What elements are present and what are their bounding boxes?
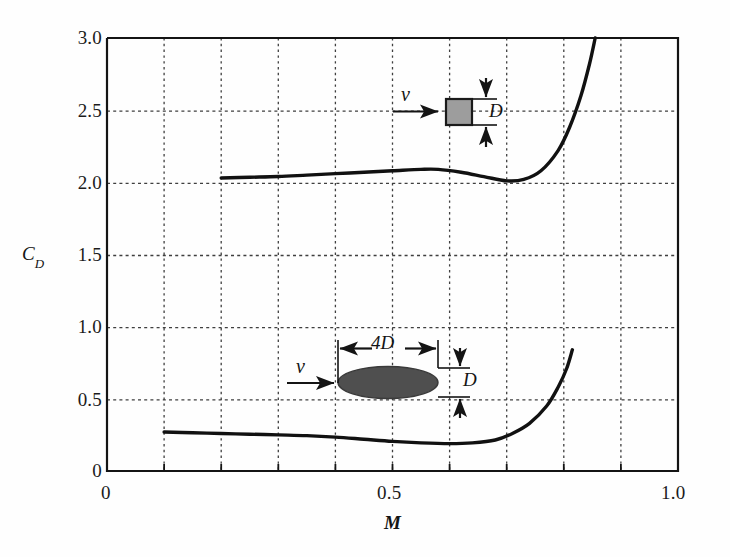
y-axis-title-main: C: [22, 243, 35, 264]
velocity-label-top: v: [401, 83, 410, 106]
x-axis-title: M: [384, 512, 401, 534]
y-tick-label-0: 0: [58, 460, 102, 482]
diameter-label-top: D: [489, 100, 503, 122]
x-tick-label-1.0: 1.0: [661, 482, 685, 504]
y-tick-label-0.5: 0.5: [58, 389, 102, 411]
curve-square-cylinder: [221, 38, 595, 181]
y-axis-title-subscript: D: [35, 256, 44, 271]
x-tick-label-0.5: 0.5: [377, 482, 401, 504]
velocity-label-bottom: v: [296, 355, 305, 378]
y-tick-label-2.5: 2.5: [58, 100, 102, 122]
y-tick-label-1.5: 1.5: [58, 244, 102, 266]
y-tick-label-3.0: 3.0: [58, 27, 102, 49]
square-body-icon: [446, 99, 472, 125]
diameter-label-bottom: D: [463, 369, 477, 391]
x-tick-label-0: 0: [101, 482, 111, 504]
chart-plot-area: [0, 0, 730, 557]
y-tick-label-1.0: 1.0: [58, 316, 102, 338]
vertical-gridlines: [164, 38, 621, 471]
y-tick-label-2.0: 2.0: [58, 172, 102, 194]
figure-container: 3.0 2.5 2.0 1.5 1.0 0.5 0 0 0.5 1.0 CD M…: [0, 0, 730, 557]
y-axis-title: CD: [22, 243, 44, 269]
length-label-4d: 4D: [371, 332, 394, 354]
ellipse-body-icon: [338, 367, 438, 399]
